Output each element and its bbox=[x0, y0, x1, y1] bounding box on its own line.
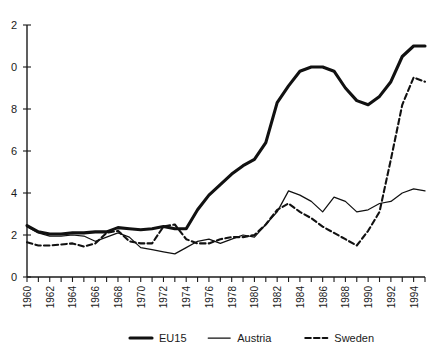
x-axis-tick-label: 1978 bbox=[227, 286, 238, 309]
y-axis-tick-label: 6 bbox=[11, 145, 17, 157]
x-axis-tick-label: 1964 bbox=[67, 286, 78, 309]
x-axis-tick-label: 1962 bbox=[45, 286, 56, 309]
line-chart: 0246802196019621964196619681970197219741… bbox=[0, 0, 432, 351]
x-axis-tick-label: 1960 bbox=[22, 286, 33, 309]
x-axis-tick-label: 1970 bbox=[136, 286, 147, 309]
x-axis-tick-label: 1980 bbox=[249, 286, 260, 309]
chart-canvas: 0246802196019621964196619681970197219741… bbox=[0, 0, 432, 351]
x-axis-tick-label: 1972 bbox=[158, 286, 169, 309]
x-axis-tick-label: 1976 bbox=[204, 286, 215, 309]
legend-item-sweden: Sweden bbox=[305, 332, 374, 344]
x-axis-tick-label: 1984 bbox=[295, 286, 306, 309]
y-axis-tick-label: 0 bbox=[11, 271, 17, 283]
y-axis-tick-label: 4 bbox=[11, 187, 17, 199]
series-line-eu15 bbox=[27, 46, 425, 234]
y-axis-tick-label: 0 bbox=[11, 61, 17, 73]
x-axis-tick-label: 1994 bbox=[409, 286, 420, 309]
y-axis-tick-label: 2 bbox=[11, 229, 17, 241]
x-axis-tick-label: 1968 bbox=[113, 286, 124, 309]
x-axis-tick-label: 1974 bbox=[181, 286, 192, 309]
y-axis-tick-label: 2 bbox=[11, 19, 17, 31]
legend-item-austria: Austria bbox=[208, 332, 272, 344]
x-axis-tick-label: 1992 bbox=[386, 286, 397, 309]
legend-label: Austria bbox=[237, 332, 272, 344]
x-axis-tick-label: 1988 bbox=[340, 286, 351, 309]
legend-label: Sweden bbox=[334, 332, 374, 344]
legend-item-eu15: EU15 bbox=[130, 332, 187, 344]
series-line-austria bbox=[27, 189, 425, 254]
x-axis-tick-label: 1986 bbox=[318, 286, 329, 309]
x-axis-tick-label: 1990 bbox=[363, 286, 374, 309]
x-axis-tick-label: 1966 bbox=[90, 286, 101, 309]
y-axis-tick-label: 8 bbox=[11, 103, 17, 115]
x-axis-tick-label: 1982 bbox=[272, 286, 283, 309]
legend-label: EU15 bbox=[159, 332, 187, 344]
